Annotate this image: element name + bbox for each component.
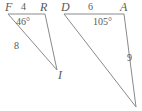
segment-DY bbox=[64, 14, 136, 107]
angle-label-A: 105° bbox=[93, 17, 112, 27]
vertex-label-F: F bbox=[5, 1, 12, 13]
segment-RI bbox=[45, 14, 57, 70]
vertex-label-D: D bbox=[61, 1, 70, 13]
side-label-DA: 6 bbox=[88, 2, 93, 12]
side-label-AY: 9 bbox=[127, 53, 132, 63]
vertex-label-I: I bbox=[58, 69, 62, 81]
triangle-DAY-shape bbox=[64, 14, 136, 107]
geometry-figure: F 4 R 46° 8 I D 6 A 105° 9 bbox=[0, 0, 142, 111]
angle-label-F: 46° bbox=[16, 17, 30, 27]
side-label-FI: 8 bbox=[14, 41, 19, 51]
vertex-label-R: R bbox=[40, 1, 47, 13]
side-label-FR: 4 bbox=[21, 2, 26, 12]
vertex-label-A: A bbox=[120, 1, 127, 13]
